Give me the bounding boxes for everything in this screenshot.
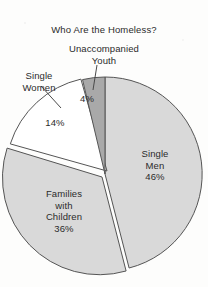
slice-value-families-with-children: 36% <box>35 223 93 235</box>
slice-label-families-line2: with <box>35 200 93 212</box>
callout-label-unaccompanied-youth: Unaccompanied Youth <box>50 43 158 66</box>
slice-value-single-women: 14% <box>38 117 72 129</box>
slice-label-single-men-line2: Men <box>132 160 178 172</box>
callout-label-single-women: Single Women <box>8 70 70 93</box>
pie-chart-page: Who Are the Homeless? Unaccompanied Yout… <box>0 0 208 287</box>
slice-label-families-line3: Children <box>35 211 93 223</box>
slice-label-families-line1: Families <box>35 188 93 200</box>
callout-label-unaccompanied-youth-line2: Youth <box>50 55 158 67</box>
slice-label-single-men: Single Men 46% <box>132 148 178 183</box>
slice-label-single-men-line1: Single <box>132 148 178 160</box>
slice-value-unaccompanied-youth: 4% <box>70 93 104 105</box>
slice-label-families-with-children: Families with Children 36% <box>35 188 93 234</box>
slice-value-single-men: 46% <box>132 171 178 183</box>
callout-label-single-women-line2: Women <box>8 82 70 94</box>
callout-label-single-women-line1: Single <box>8 70 70 82</box>
callout-label-unaccompanied-youth-line1: Unaccompanied <box>50 43 158 55</box>
